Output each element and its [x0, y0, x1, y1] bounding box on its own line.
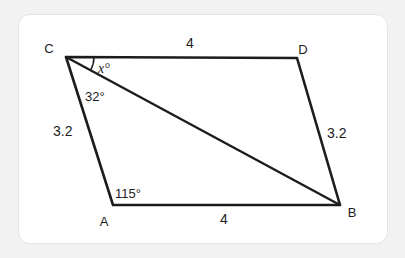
geometry-diagram: C D A B 4 3.2 4 3.2 x° 32° 115° [0, 0, 405, 258]
angle-label-115: 115° [115, 186, 141, 201]
angle-arc-x [91, 57, 94, 70]
angle-label-32: 32° [85, 89, 105, 104]
edge-length-ca: 3.2 [53, 123, 73, 139]
vertex-label-b: B [348, 205, 357, 220]
vertex-label-d: D [298, 42, 307, 57]
angle-label-x: x° [97, 61, 110, 76]
edge-length-ab: 4 [220, 211, 228, 227]
vertex-label-a: A [100, 214, 109, 229]
edge-length-db: 3.2 [327, 125, 347, 141]
vertex-label-c: C [44, 41, 53, 56]
edge-length-cd: 4 [186, 35, 194, 51]
